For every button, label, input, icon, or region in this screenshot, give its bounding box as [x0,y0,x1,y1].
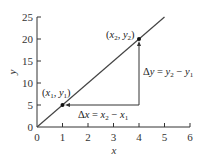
slope-diagram: 25 20 15 10 5 0 0 1 2 3 4 5 6 x y (x1, y… [0,0,200,158]
svg-text:5: 5 [162,131,168,143]
svg-text:25: 25 [22,11,34,23]
svg-text:20: 20 [22,33,34,45]
svg-text:0: 0 [28,121,34,133]
y-tick-labels: 25 20 15 10 5 0 [22,11,34,133]
point-2 [137,37,141,41]
delta-x-arrowhead [65,103,70,107]
point-1 [61,103,65,107]
delta-x-label: Δx = x2 − x1 [78,109,129,122]
x-axis-label: x [111,144,117,156]
x-tick-labels: 0 1 2 3 4 5 6 [34,131,193,143]
svg-text:5: 5 [28,99,34,111]
svg-text:4: 4 [136,131,142,143]
svg-text:6: 6 [187,131,193,143]
x-ticks [63,123,191,127]
y-axis-label: y [6,69,18,75]
svg-text:1: 1 [60,131,66,143]
delta-y-label: Δy = y2 − y1 [143,66,194,79]
svg-text:2: 2 [85,131,91,143]
svg-text:0: 0 [34,131,40,143]
point-2-label: (x2, y2) [106,29,135,42]
y-ticks [37,17,41,105]
svg-text:3: 3 [111,131,117,143]
delta-y-arrowhead [137,41,141,46]
svg-text:10: 10 [22,77,34,89]
svg-text:15: 15 [22,55,34,67]
point-1-label: (x1, y1) [42,87,71,100]
